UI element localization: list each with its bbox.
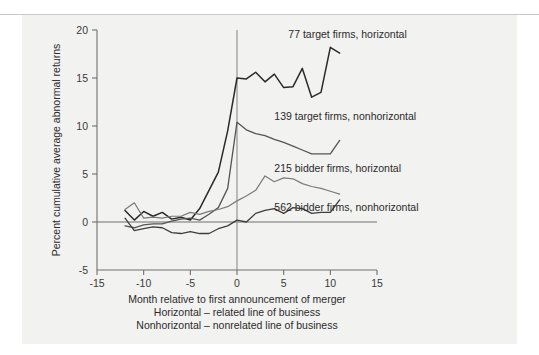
y-tick-label-0: 0: [82, 216, 88, 228]
annotation-bidder-nonhorizontal: 562 bidder firms, nonhorizontal: [274, 201, 418, 213]
series-line-0: [125, 47, 340, 220]
annotation-target-horizontal: 77 target firms, horizontal: [288, 28, 406, 40]
x-axis-title: Month relative to first announcement of …: [128, 293, 346, 305]
x-tick-label-0: 0: [234, 277, 240, 289]
x-tick-label--15: -15: [89, 277, 104, 289]
x-tick-label-15: 15: [371, 277, 383, 289]
annotation-target-nonhorizontal: 139 target firms, nonhorizontal: [274, 110, 416, 122]
y-axis-title: Percent cumulative average abnormal retu…: [50, 44, 62, 256]
y-tick-label--5: -5: [79, 264, 88, 276]
footnote-line-1: Horizontal – related line of business: [154, 306, 320, 318]
x-tick-label-5: 5: [281, 277, 287, 289]
x-tick-label-10: 10: [324, 277, 336, 289]
chart-svg: 20151050-5-15-10-5051015Month relative t…: [0, 0, 539, 355]
y-tick-label-15: 15: [76, 72, 88, 84]
annotation-bidder-horizontal: 215 bidder firms, horizontal: [274, 162, 401, 174]
y-tick-label-20: 20: [76, 24, 88, 36]
footnote-line-2: Nonhorizontal – nonrelated line of busin…: [136, 319, 337, 331]
x-tick-label--10: -10: [136, 277, 151, 289]
figure-container: 20151050-5-15-10-5051015Month relative t…: [0, 0, 539, 355]
x-tick-label--5: -5: [186, 277, 195, 289]
labels-group: 20151050-5-15-10-5051015Month relative t…: [50, 24, 419, 331]
y-tick-label-5: 5: [82, 168, 88, 180]
y-tick-label-10: 10: [76, 120, 88, 132]
axes-group: [92, 30, 377, 275]
